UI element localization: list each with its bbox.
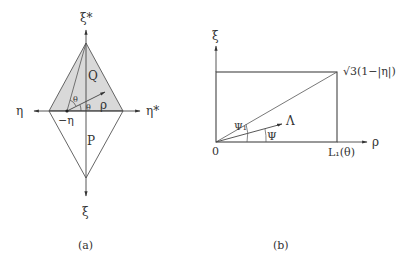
panel-a: ξ* ξ η η* −η Q P ρ θ θ (a): [16, 11, 159, 252]
label-theta-upper: θ: [73, 95, 78, 104]
caption-a: (a): [78, 239, 93, 252]
label-psi: Ψ: [267, 130, 277, 143]
label-rho-b: ρ: [372, 135, 379, 149]
label-eta: η: [16, 104, 23, 118]
label-theta-lower: θ: [86, 103, 91, 112]
label-eta-star: η*: [146, 104, 159, 118]
label-rho: ρ: [100, 98, 107, 112]
panel-b: ξ ρ 0 L₁(θ) √3(1−|η|) Λ Ψ₁ Ψ (b): [212, 29, 396, 252]
label-origin: 0: [212, 145, 219, 158]
label-xi-b: ξ: [212, 29, 219, 43]
label-xi: ξ: [82, 205, 89, 219]
label-q: Q: [88, 69, 98, 83]
label-xi-star: ξ*: [80, 11, 93, 25]
point-minus-eta: [65, 109, 68, 112]
figure-canvas: ξ* ξ η η* −η Q P ρ θ θ (a) ξ ρ 0 L₁(θ) √…: [0, 0, 406, 265]
angle-arc-psi: [265, 129, 266, 142]
caption-b: (b): [273, 239, 289, 252]
label-p: P: [87, 134, 95, 148]
label-psi1: Ψ₁: [234, 121, 247, 132]
label-minus-eta: −η: [58, 114, 74, 127]
label-l1-theta: L₁(θ): [328, 146, 355, 159]
label-y-extent: √3(1−|η|): [343, 65, 396, 79]
label-lambda: Λ: [285, 114, 295, 128]
